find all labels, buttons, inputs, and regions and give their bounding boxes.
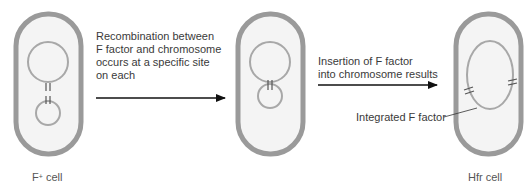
hfr-cell [456,14,521,154]
caption-rest: cell [43,171,63,183]
f-factor-integration-diagram [0,0,531,187]
step2-line-1: Insertion of F factor [318,55,438,68]
step1-description: Recombination between F factor and chrom… [96,30,221,82]
caption-main: F [32,171,39,183]
step2-line-2: into chromosome results [318,68,438,81]
integrated-f-factor-label: Integrated F factor [356,111,446,124]
step1-line-1: Recombination between [96,30,221,43]
step1-line-4: on each [96,69,221,82]
f-plus-cell-caption: F+ cell [32,171,62,184]
f-plus-cell [16,14,81,154]
hfr-cell-caption: Hfr cell [468,171,502,184]
intermediate-cell [238,14,303,154]
step1-line-3: occurs at a specific site [96,56,221,69]
step2-description: Insertion of F factor into chromosome re… [318,55,438,81]
caption-superscript: + [39,173,43,180]
step1-line-2: F factor and chromosome [96,43,221,56]
